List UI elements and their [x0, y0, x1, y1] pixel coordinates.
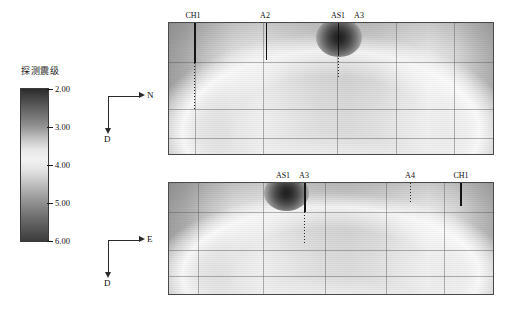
colorbar-tick-mark [47, 89, 53, 90]
colorbar-tick-mark [47, 127, 53, 128]
station-label-as1: AS1 [276, 171, 290, 180]
marker-stem [266, 23, 268, 60]
colorbar-tick-label: 5.00 [55, 199, 70, 208]
colorbar-tick-mark [47, 241, 53, 242]
marker-stem [460, 183, 462, 206]
orientation-indicator-east: E D [104, 232, 162, 288]
arrow-right-icon [139, 92, 145, 98]
gridline-vertical [454, 23, 455, 154]
gridline-vertical [263, 183, 264, 294]
orientation-label-depth: D [104, 134, 111, 144]
station-label-as1: AS1 [331, 11, 345, 20]
gridline-horizontal [169, 212, 493, 213]
gridline-vertical [396, 23, 397, 154]
orientation-vertical-axis [108, 240, 109, 274]
marker-stem [304, 183, 306, 212]
marker-tail [410, 183, 411, 202]
gridline-horizontal [169, 109, 493, 110]
colorbar-tick-label: 3.00 [55, 123, 70, 132]
colorbar-tick-mark [47, 165, 53, 166]
orientation-label-east: E [147, 234, 153, 244]
gridline-horizontal [169, 276, 493, 277]
orientation-horizontal-axis [108, 240, 140, 241]
gridline-horizontal [169, 250, 493, 251]
station-label-a3: A3 [299, 171, 309, 180]
orientation-indicator-north: N D [104, 88, 162, 144]
station-label-a3: A3 [354, 11, 364, 20]
marker-tail [194, 63, 195, 109]
gridline-vertical [444, 183, 445, 294]
marker-tail [338, 55, 339, 77]
marker-stem [338, 23, 340, 55]
marker-tail [304, 212, 305, 244]
colorbar-gradient [20, 88, 49, 242]
gridline-vertical [386, 183, 387, 294]
magnitude-heatmap-panel-north [168, 22, 494, 155]
station-label-ch1: CH1 [185, 11, 200, 20]
gridline-vertical [325, 183, 326, 294]
colorbar-tick-mark [47, 203, 53, 204]
gridline-horizontal [169, 138, 493, 139]
orientation-label-depth: D [104, 278, 111, 288]
colorbar-tick-label: 4.00 [55, 161, 70, 170]
orientation-label-north: N [147, 90, 154, 100]
magnitude-heatmap-panel-east [168, 182, 494, 295]
marker-stem [194, 23, 196, 63]
gridline-horizontal [169, 62, 493, 63]
colorbar-title: 探测震级 [8, 64, 72, 77]
station-label-ch1: CH1 [453, 171, 468, 180]
colorbar-legend: 探测震级 2.00 3.00 4.00 5.00 6.00 [8, 64, 108, 244]
station-label-a2: A2 [260, 11, 270, 20]
orientation-horizontal-axis [108, 96, 140, 97]
orientation-vertical-axis [108, 96, 109, 130]
colorbar-tick-label: 6.00 [55, 237, 70, 246]
colorbar-tick-label: 2.00 [55, 85, 70, 94]
arrow-right-icon [139, 236, 145, 242]
station-label-a4: A4 [405, 171, 415, 180]
gridline-vertical [198, 183, 199, 294]
gridline-vertical [263, 23, 264, 154]
